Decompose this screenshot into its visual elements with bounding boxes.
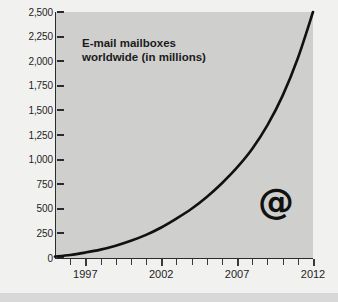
y-axis-tick: 1,250 <box>0 129 64 141</box>
y-axis-tick-label: 2,000 <box>28 56 57 67</box>
y-axis-tick: 1,000 <box>0 154 64 166</box>
y-axis-tick-mark <box>57 109 64 111</box>
x-axis-tick-mark <box>146 259 147 265</box>
y-axis-tick-label: 1,750 <box>28 80 57 91</box>
x-axis-tick-mark <box>85 259 87 266</box>
y-axis-tick: 1,750 <box>0 80 64 92</box>
bottom-edge-band <box>0 293 338 302</box>
y-axis-tick: 250 <box>0 227 64 239</box>
y-axis-tick-label: 1,000 <box>28 154 57 165</box>
x-axis-tick-mark <box>161 259 163 266</box>
chart-title-line-1: E-mail mailboxes <box>82 37 176 49</box>
chart-title-line-2: worldwide (in millions) <box>82 51 206 63</box>
y-axis-tick: 750 <box>0 178 64 190</box>
x-axis-tick-mark <box>101 259 102 265</box>
at-sign-annotation-icon: @ <box>258 184 294 220</box>
y-axis-tick-label: 1,250 <box>28 130 57 141</box>
y-axis-tick-mark <box>57 232 64 234</box>
chart-title: E-mail mailboxes worldwide (in millions) <box>82 36 206 64</box>
chart-figure: 02505007501,0001,2501,5001,7502,0002,250… <box>0 0 338 302</box>
y-axis-tick-mark <box>57 183 64 185</box>
y-axis-tick: 500 <box>0 203 64 215</box>
y-axis-tick-mark <box>57 60 64 62</box>
y-axis-tick-mark <box>57 36 64 38</box>
x-axis-tick-mark <box>70 259 71 265</box>
x-axis-tick-mark <box>131 259 132 265</box>
y-axis-tick-mark <box>57 208 64 210</box>
y-axis-tick-label: 2,250 <box>28 31 57 42</box>
x-axis-tick-mark <box>267 259 268 265</box>
y-axis-tick-label: 750 <box>37 179 57 190</box>
y-axis-tick-mark <box>57 134 64 136</box>
x-axis-tick-label: 1997 <box>73 268 97 280</box>
x-axis-tick-mark <box>176 259 177 265</box>
y-axis-tick-label: 0 <box>48 253 57 264</box>
x-axis-tick-mark <box>283 259 284 265</box>
x-axis-tick-mark <box>237 259 239 266</box>
x-axis-tick-label: 2002 <box>149 268 173 280</box>
x-axis-tick-mark <box>313 259 315 266</box>
y-axis-tick: 2,250 <box>0 31 64 43</box>
y-axis-tick-label: 2,500 <box>28 7 57 18</box>
x-axis-tick-mark <box>252 259 253 265</box>
x-axis-tick-mark <box>222 259 223 265</box>
y-axis-tick: 0 <box>0 252 64 264</box>
x-axis-tick-mark <box>298 259 299 265</box>
x-axis-tick-mark <box>207 259 208 265</box>
x-axis-tick-mark <box>192 259 193 265</box>
y-axis-tick-mark <box>57 257 64 259</box>
x-axis-tick-label: 2007 <box>225 268 249 280</box>
y-axis-tick-mark <box>57 11 64 13</box>
y-axis-tick-mark <box>57 85 64 87</box>
y-axis-tick: 1,500 <box>0 104 64 116</box>
y-axis-tick: 2,000 <box>0 55 64 67</box>
x-axis-tick-mark <box>116 259 117 265</box>
x-axis-line <box>55 258 313 259</box>
y-axis-tick-mark <box>57 159 64 161</box>
y-axis-tick-label: 250 <box>37 228 57 239</box>
y-axis-tick-label: 500 <box>37 203 57 214</box>
x-axis-tick-label: 2012 <box>301 268 325 280</box>
y-axis-tick: 2,500 <box>0 6 64 18</box>
y-axis-tick-label: 1,500 <box>28 105 57 116</box>
